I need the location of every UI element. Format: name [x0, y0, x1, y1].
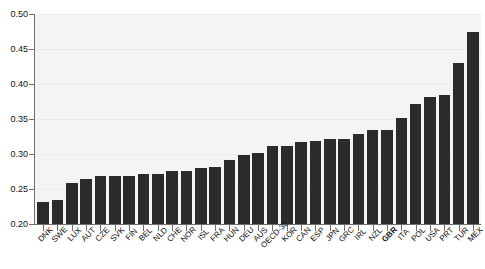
bar [467, 32, 479, 224]
x-label-slot: JPN [324, 231, 336, 269]
bar [295, 142, 307, 224]
bar [66, 183, 78, 224]
x-axis-labels: DNKSWELUXAUTCZESVKFINBELNLDCHENORISLFRAH… [35, 231, 481, 269]
bar [439, 95, 451, 225]
x-label-slot: FRA [209, 231, 221, 269]
y-tick-mark [29, 14, 35, 15]
x-label-slot: POL [410, 231, 422, 269]
bar [281, 146, 293, 224]
bar [396, 118, 408, 224]
bar [410, 104, 422, 224]
y-tick-mark [29, 119, 35, 120]
y-tick-label: 0.25 [0, 185, 28, 194]
x-label-slot: KOR [281, 231, 293, 269]
x-label-slot: MEX [467, 231, 479, 269]
bar [166, 171, 178, 224]
y-tick-label: 0.35 [0, 115, 28, 124]
bar [109, 176, 121, 224]
bar [238, 155, 250, 224]
x-label-slot: IRL [353, 231, 365, 269]
bar [95, 176, 107, 224]
bar [152, 174, 164, 224]
bar [453, 63, 465, 224]
bar-series [35, 14, 481, 224]
y-tick-mark [29, 189, 35, 190]
bar [252, 153, 264, 224]
x-label-slot: DEU [238, 231, 250, 269]
x-label-slot: SWE [52, 231, 64, 269]
bar [37, 202, 49, 224]
y-tick-label: 0.45 [0, 45, 28, 54]
y-tick-label: 0.50 [0, 10, 28, 19]
x-label-slot: TUR [453, 231, 465, 269]
x-label-slot: CZE [95, 231, 107, 269]
x-label-slot: SVK [109, 231, 121, 269]
bar [367, 130, 379, 225]
x-label-slot: ESP [310, 231, 322, 269]
bar [424, 97, 436, 224]
x-label-slot: GRC [338, 231, 350, 269]
bar [224, 160, 236, 224]
x-label-slot: CHE [166, 231, 178, 269]
x-label-slot: NOR [181, 231, 193, 269]
x-label-slot: HUN [224, 231, 236, 269]
x-label-slot: AUS [252, 231, 264, 269]
x-label-slot: DNK [37, 231, 49, 269]
bar [310, 141, 322, 224]
bar [353, 134, 365, 224]
bar [381, 130, 393, 225]
x-label-slot: ISL [195, 231, 207, 269]
y-tick-mark [29, 224, 35, 225]
bar [209, 167, 221, 224]
bar [138, 174, 150, 224]
bar [52, 200, 64, 224]
bar [181, 171, 193, 224]
y-tick-label: 0.40 [0, 80, 28, 89]
bar [338, 139, 350, 224]
x-label-slot: AUT [80, 231, 92, 269]
bar [123, 176, 135, 224]
x-label-slot: OECD-30 [267, 231, 279, 269]
x-label-slot: NLD [152, 231, 164, 269]
x-label-slot: FIN [123, 231, 135, 269]
x-label-slot: PRT [439, 231, 451, 269]
x-label-slot: USA [424, 231, 436, 269]
bar [267, 146, 279, 224]
x-label-slot: GBR [381, 231, 393, 269]
y-tick-mark [29, 49, 35, 50]
plot-area [35, 14, 481, 224]
y-tick-label: 0.20 [0, 220, 28, 229]
x-label-slot: CAN [295, 231, 307, 269]
y-tick-mark [29, 84, 35, 85]
bar [324, 139, 336, 224]
x-label-slot: BEL [138, 231, 150, 269]
bar [80, 179, 92, 225]
y-axis-labels: 0.200.250.300.350.400.450.50 [0, 0, 28, 269]
bar [195, 168, 207, 224]
x-label-slot: NZL [367, 231, 379, 269]
y-tick-mark [29, 154, 35, 155]
x-label-slot: ITA [396, 231, 408, 269]
x-label-slot: LUX [66, 231, 78, 269]
y-tick-label: 0.30 [0, 150, 28, 159]
